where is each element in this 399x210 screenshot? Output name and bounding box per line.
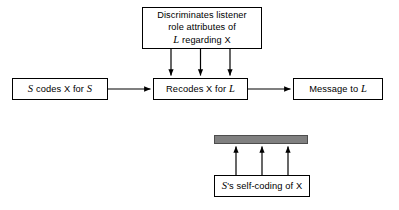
node-s-codes-x-for-s: S codes X for S — [12, 78, 108, 100]
node-discriminates-listener-role-attributes: Discriminates listenerrole attributes of… — [142, 7, 262, 49]
italic-l: L — [361, 83, 367, 94]
flow-diagram: Discriminates listenerrole attributes of… — [0, 0, 399, 210]
receiver-bar — [214, 135, 308, 144]
node-selfcoding-label: S's self-coding of X — [219, 180, 305, 193]
node-message-label: Message to L — [306, 83, 370, 96]
italic-s-trailing: S — [87, 83, 92, 94]
node-message-to-l: Message to L — [293, 78, 383, 100]
node-recodes-label: Recodes X for L — [163, 83, 238, 96]
node-codes-label: S codes X for S — [25, 83, 95, 96]
node-recodes-x-for-l: Recodes X for L — [153, 78, 248, 100]
italic-l: L — [229, 83, 235, 94]
node-discriminates-label: Discriminates listenerrole attributes of… — [154, 9, 250, 47]
node-s-self-coding-of-x: S's self-coding of X — [214, 175, 310, 197]
